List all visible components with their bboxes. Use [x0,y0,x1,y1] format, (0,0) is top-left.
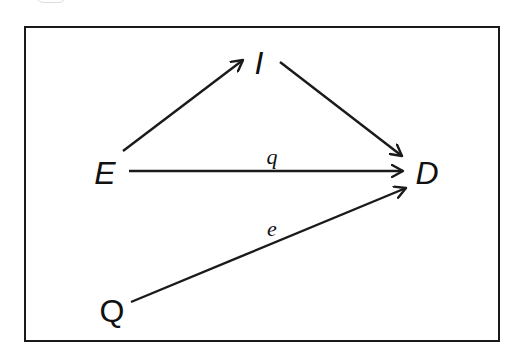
node-d: D [415,157,438,189]
edge-i-to-d [280,62,402,156]
node-q: Q [100,295,125,327]
edge-label-q: q [267,146,278,168]
node-e: E [94,157,115,189]
edges-layer [0,0,528,360]
edge-q-to-d [131,188,406,302]
edge-e-to-i [123,60,243,151]
node-i: I [255,47,264,79]
edge-label-e: e [267,218,277,240]
causal-diagram: I E D Q q e [0,0,528,360]
